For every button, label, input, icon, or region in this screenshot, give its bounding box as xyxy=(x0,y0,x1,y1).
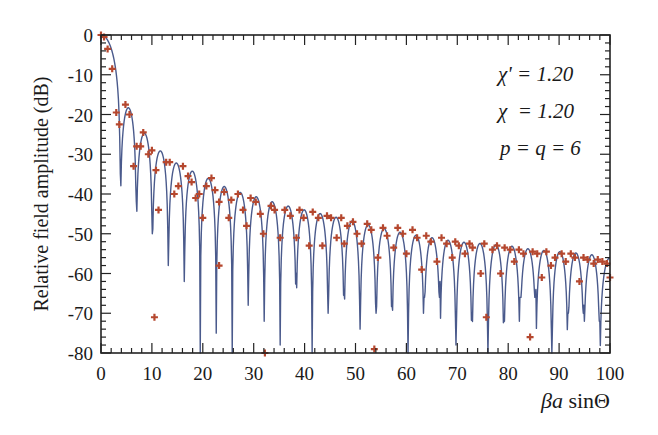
y-tick-label: -50 xyxy=(68,224,93,245)
measured-marker xyxy=(368,226,375,233)
y-tick-label: -70 xyxy=(68,303,93,324)
measured-marker xyxy=(494,242,501,249)
measured-marker xyxy=(208,175,215,182)
annotation-chi-prime: χ' = 1.20 xyxy=(496,62,574,86)
measured-marker xyxy=(394,224,401,231)
measured-marker xyxy=(122,101,129,108)
x-axis-title-a: a xyxy=(552,388,563,413)
measured-marker xyxy=(225,214,232,221)
measured-marker xyxy=(243,222,250,229)
measured-marker xyxy=(155,206,162,213)
measured-marker xyxy=(306,242,313,249)
y-tick-label: -30 xyxy=(68,144,93,165)
y-tick-label: -20 xyxy=(68,105,93,126)
measured-marker xyxy=(374,254,381,261)
measured-marker xyxy=(527,334,534,341)
measured-marker xyxy=(423,232,430,239)
x-tick-label: 50 xyxy=(346,363,365,384)
measured-marker xyxy=(309,208,316,215)
measured-marker xyxy=(371,346,378,353)
measured-marker xyxy=(477,270,484,277)
x-tick-label: 0 xyxy=(96,363,106,384)
measured-marker xyxy=(179,163,186,170)
measured-marker xyxy=(151,314,158,321)
measured-marker xyxy=(403,250,410,257)
measured-marker xyxy=(333,234,340,241)
measured-marker xyxy=(319,242,326,249)
measured-marker xyxy=(449,254,456,261)
y-tick-label: -40 xyxy=(68,184,93,205)
measured-marker xyxy=(271,206,278,213)
x-axis-title: βa sinΘ xyxy=(540,388,610,413)
y-tick-label: 0 xyxy=(84,25,94,46)
measured-marker xyxy=(418,266,425,273)
y-tick-label: -60 xyxy=(68,264,93,285)
measured-marker xyxy=(497,270,504,277)
measured-marker xyxy=(199,214,206,221)
measured-marker xyxy=(433,258,440,265)
x-axis-title-beta: β xyxy=(540,388,552,413)
measured-marker xyxy=(438,234,445,241)
measured-marker xyxy=(145,151,152,158)
annotation-p-q: p = q = 6 xyxy=(498,136,581,160)
measured-marker xyxy=(137,143,144,150)
measured-marker xyxy=(315,214,322,221)
measured-marker xyxy=(414,234,421,241)
measured-marker xyxy=(171,191,178,198)
measured-marker xyxy=(409,226,416,233)
measured-marker xyxy=(234,191,241,198)
annotation-chi: χ = 1.20 xyxy=(496,99,574,123)
measured-marker xyxy=(216,198,223,205)
x-tick-label: 70 xyxy=(448,363,467,384)
measured-marker xyxy=(247,194,254,201)
measured-marker xyxy=(384,232,391,239)
x-axis-tick-labels: 0102030405060708090100 xyxy=(96,363,624,384)
measured-marker xyxy=(399,230,406,237)
x-tick-label: 90 xyxy=(550,363,569,384)
measured-marker xyxy=(166,159,173,166)
measured-marker xyxy=(515,246,522,253)
measured-marker xyxy=(543,248,550,255)
measured-marker xyxy=(354,230,361,237)
x-tick-label: 60 xyxy=(397,363,416,384)
y-tick-label: -80 xyxy=(68,343,93,364)
radiation-pattern-chart: 0102030405060708090100 0-10-20-30-40-50-… xyxy=(0,0,658,435)
measured-marker xyxy=(489,246,496,253)
measured-marker xyxy=(152,167,159,174)
y-axis-tick-labels: 0-10-20-30-40-50-60-70-80 xyxy=(68,25,93,364)
measured-marker xyxy=(538,274,545,281)
x-axis-title-sin: sinΘ xyxy=(563,388,610,413)
x-tick-label: 20 xyxy=(193,363,212,384)
measured-marker xyxy=(558,250,565,257)
measured-marker xyxy=(452,238,459,245)
y-tick-label: -10 xyxy=(68,65,93,86)
x-tick-label: 80 xyxy=(499,363,518,384)
measured-marker xyxy=(116,121,123,128)
x-tick-label: 100 xyxy=(596,363,625,384)
x-tick-label: 10 xyxy=(142,363,161,384)
measured-marker xyxy=(257,210,264,217)
x-tick-label: 40 xyxy=(295,363,314,384)
x-tick-label: 30 xyxy=(244,363,263,384)
y-axis-title: Relative field amplitude (dB) xyxy=(30,77,53,312)
